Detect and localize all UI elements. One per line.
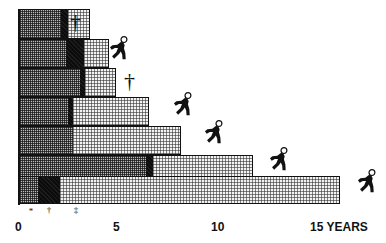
walking-person-icon	[199, 119, 227, 147]
row7-segment-dots	[60, 176, 340, 204]
table-row	[19, 97, 149, 126]
row2-segment-grid	[19, 39, 66, 68]
row2-segment-black	[66, 39, 84, 68]
x-axis-tick-15-years: 15 YEARS	[310, 221, 368, 233]
tick-symbol-double-dagger: ‡	[71, 206, 81, 215]
row1-segment-grid	[19, 9, 61, 39]
row1-segment-black	[61, 9, 68, 39]
tick-symbol-dagger: †	[44, 206, 54, 215]
row3-segment-dots	[85, 68, 116, 97]
table-row	[19, 176, 340, 204]
row7-segment-black	[38, 176, 60, 204]
stacked-bar-timeline-chart: † †	[0, 0, 386, 243]
row7-segment-grid	[19, 176, 38, 204]
row3-segment-grid	[19, 68, 80, 97]
x-axis-tick-0: 0	[15, 221, 22, 233]
walking-person-icon	[352, 168, 380, 196]
x-axis-tick-5: 5	[113, 221, 120, 233]
table-row	[19, 39, 109, 68]
tick-symbol-asterisk: *	[26, 207, 36, 216]
walking-person-icon	[104, 35, 132, 63]
row5-segment-grid	[19, 126, 73, 155]
table-row	[19, 126, 181, 155]
death-cross-icon: †	[124, 70, 135, 92]
walking-person-icon	[264, 146, 292, 174]
row4-segment-grid	[19, 97, 68, 126]
death-cross-icon: †	[70, 11, 81, 33]
row5-segment-dots	[73, 126, 181, 155]
table-row	[19, 68, 116, 97]
y-axis-line	[18, 9, 20, 205]
walking-person-icon	[168, 91, 196, 119]
x-axis-tick-10: 10	[211, 221, 224, 233]
row4-segment-dots	[73, 97, 149, 126]
